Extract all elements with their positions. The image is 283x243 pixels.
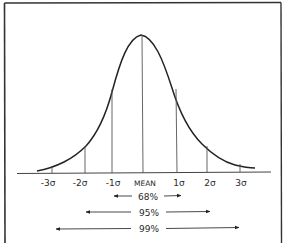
axis-labels: -3σ -2σ -1σ MEAN 1σ 2σ 3σ: [41, 178, 247, 188]
label-pos3: 3σ: [235, 178, 247, 188]
range-99-label: 99%: [139, 224, 159, 234]
range-68-label: 68%: [138, 192, 158, 202]
baseline-axis: [17, 172, 271, 174]
bell-curve: [37, 35, 255, 171]
normal-distribution-figure: -3σ -2σ -1σ MEAN 1σ 2σ 3σ 68% 95%: [0, 0, 283, 243]
range-95-label: 95%: [139, 208, 159, 218]
line-mean: [142, 35, 143, 173]
label-neg2: -2σ: [73, 178, 88, 188]
label-pos2: 2σ: [204, 178, 216, 188]
label-pos1: 1σ: [173, 178, 185, 188]
range-99: 99%: [56, 224, 239, 234]
label-neg3: -3σ: [41, 178, 56, 188]
range-95: 95%: [86, 208, 210, 218]
range-68: 68%: [114, 192, 181, 202]
label-mean: MEAN: [134, 179, 156, 188]
label-neg1: -1σ: [106, 178, 121, 188]
